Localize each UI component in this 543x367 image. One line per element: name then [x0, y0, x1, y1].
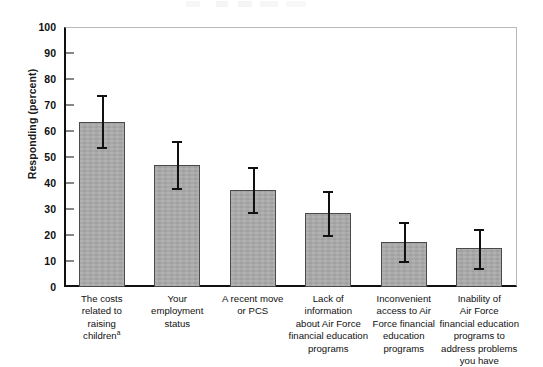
x-axis-label-line: employment: [137, 305, 219, 317]
error-bar-cap-upper: [474, 229, 484, 231]
x-axis-label-line: Inability of: [439, 293, 521, 305]
error-bar-cap-lower: [323, 235, 333, 237]
x-axis-label-line: access to Air: [363, 305, 445, 317]
x-axis-label-line: financial education: [439, 318, 521, 330]
error-bar-stem: [102, 95, 104, 147]
y-axis-tick-label: 40: [10, 177, 56, 189]
y-axis-tick-mark: [66, 53, 74, 54]
error-bar-stem: [404, 222, 406, 261]
x-axis-label-line: related to: [61, 305, 143, 317]
x-axis-category-label: A recent moveor PCS: [212, 293, 294, 318]
x-axis-label-line: status: [137, 318, 219, 330]
error-bar-stem: [253, 167, 255, 211]
y-axis-tick-mark: [66, 79, 74, 80]
x-axis-label-line: childrena: [61, 330, 143, 342]
x-axis-category-label: Lack ofinformationabout Air Forcefinanci…: [288, 293, 370, 355]
x-axis-label-line: Your: [137, 293, 219, 305]
x-axis-label-line: The costs: [61, 293, 143, 305]
error-bar-cap-upper: [323, 191, 333, 193]
x-axis-label-line: raising: [61, 318, 143, 330]
x-axis-label-line: A recent move: [212, 293, 294, 305]
y-axis-tick-label: 50: [10, 151, 56, 163]
x-axis-category-label: Youremploymentstatus: [137, 293, 219, 330]
error-bar-stem: [479, 229, 481, 268]
y-axis-tick-mark: [66, 131, 74, 132]
x-axis-label-line: about Air Force: [288, 318, 370, 330]
y-axis-tick-mark: [66, 261, 74, 262]
y-axis-tick-label: 100: [10, 21, 56, 33]
footnote-marker: a: [117, 329, 121, 336]
x-axis-label-line: you have: [439, 355, 521, 367]
x-axis-label-line: programs to: [439, 330, 521, 342]
error-bar-cap-lower: [172, 188, 182, 190]
y-axis-tick-mark: [66, 235, 74, 236]
error-bar-stem: [177, 141, 179, 188]
x-axis-label-line: or PCS: [212, 305, 294, 317]
y-axis-tick-label: 20: [10, 229, 56, 241]
x-axis-category-label: Inability ofAir Forcefinancial education…: [439, 293, 521, 367]
y-axis-tick-label: 10: [10, 255, 56, 267]
x-axis-label-line: financial education: [288, 330, 370, 342]
y-axis-tick-label: 70: [10, 99, 56, 111]
x-axis-label-line: Inconvenient: [363, 293, 445, 305]
y-axis-tick-label: 0: [10, 281, 56, 293]
y-axis-tick-label: 60: [10, 125, 56, 137]
x-axis-label-line: programs: [363, 343, 445, 355]
y-axis-tick-label: 90: [10, 47, 56, 59]
error-bar-cap-upper: [97, 95, 107, 97]
x-axis-label-line: Force financial: [363, 318, 445, 330]
y-axis-tick-label: 30: [10, 203, 56, 215]
x-axis-category-label: The costsrelated toraisingchildrena: [61, 293, 143, 343]
error-bar-cap-lower: [248, 212, 258, 214]
y-axis-tick-mark: [66, 209, 74, 210]
error-bar-cap-upper: [248, 167, 258, 169]
error-bar-cap-lower: [399, 261, 409, 263]
y-axis-tick-mark: [66, 157, 74, 158]
x-axis-label-line: information: [288, 305, 370, 317]
y-axis-tick-label: 80: [10, 73, 56, 85]
error-bar-stem: [328, 191, 330, 235]
error-bar-cap-upper: [399, 222, 409, 224]
x-axis-category-label: Inconvenientaccess to AirForce financial…: [363, 293, 445, 355]
top-edge-artifact: [186, 1, 306, 7]
error-bar-cap-upper: [172, 141, 182, 143]
x-axis-label-line: address problems: [439, 343, 521, 355]
y-axis-tick-mark: [66, 105, 74, 106]
y-axis-tick-mark: [66, 183, 74, 184]
x-axis-label-line: education: [363, 330, 445, 342]
x-axis-label-line: Air Force: [439, 305, 521, 317]
error-bar-cap-lower: [474, 268, 484, 270]
x-axis-label-line: Lack of: [288, 293, 370, 305]
x-axis-label-line: programs: [288, 343, 370, 355]
error-bar-cap-lower: [97, 147, 107, 149]
plot-area: [64, 27, 517, 287]
